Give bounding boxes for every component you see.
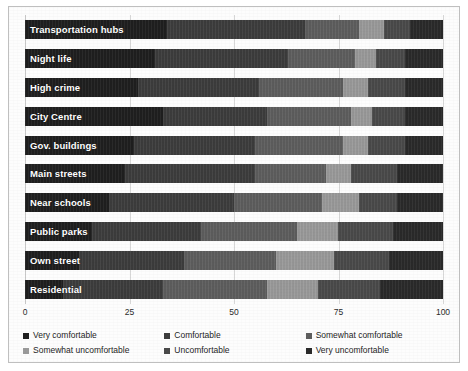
gridline-100: [443, 15, 444, 304]
chart-frame: Transportation hubsNight lifeHigh crimeC…: [8, 6, 460, 363]
x-tick-label: 100: [436, 307, 450, 317]
x-tick-label: 50: [229, 307, 238, 317]
bar-segment[interactable]: [384, 20, 409, 39]
legend-label: Comfortable: [174, 328, 220, 343]
bar-row[interactable]: Residential: [25, 280, 443, 299]
legend-swatch-icon: [23, 333, 29, 339]
bar-segment[interactable]: [79, 251, 184, 270]
bar-track: [25, 164, 443, 183]
bar-row[interactable]: Main streets: [25, 164, 443, 183]
legend-item[interactable]: Somewhat uncomfortable: [23, 343, 164, 358]
bar-segment[interactable]: [92, 222, 201, 241]
bar-segment[interactable]: [276, 251, 335, 270]
bar-segment[interactable]: [351, 164, 397, 183]
bar-segment[interactable]: [259, 78, 343, 97]
legend-swatch-icon: [164, 333, 170, 339]
bar-category-label: Own street: [30, 251, 80, 270]
bar-segment[interactable]: [134, 136, 255, 155]
legend-label: Somewhat uncomfortable: [33, 343, 129, 358]
bar-segment[interactable]: [288, 49, 355, 68]
legend-item[interactable]: Uncomfortable: [164, 343, 305, 358]
bar-segment[interactable]: [368, 136, 406, 155]
bar-segment[interactable]: [410, 20, 443, 39]
x-axis: 0255075100: [25, 307, 443, 321]
bar-segment[interactable]: [389, 251, 443, 270]
bar-segment[interactable]: [155, 49, 289, 68]
bar-segment[interactable]: [359, 20, 384, 39]
bar-segment[interactable]: [368, 78, 406, 97]
bar-segment[interactable]: [359, 193, 397, 212]
bar-row[interactable]: Night life: [25, 49, 443, 68]
bar-segment[interactable]: [343, 136, 368, 155]
bar-segment[interactable]: [326, 164, 351, 183]
bar-segment[interactable]: [405, 107, 443, 126]
bar-segment[interactable]: [393, 222, 443, 241]
legend-item[interactable]: Comfortable: [164, 328, 305, 343]
bar-row[interactable]: High crime: [25, 78, 443, 97]
bar-track: [25, 251, 443, 270]
bar-segment[interactable]: [201, 222, 297, 241]
bar-segment[interactable]: [297, 222, 339, 241]
legend-label: Very comfortable: [33, 328, 97, 343]
bar-row[interactable]: Transportation hubs: [25, 20, 443, 39]
bar-segment[interactable]: [167, 20, 305, 39]
x-tick-label: 25: [125, 307, 134, 317]
legend-label: Somewhat comfortable: [316, 328, 403, 343]
legend-label: Very uncomfortable: [316, 343, 389, 358]
bar-track: [25, 280, 443, 299]
bar-row[interactable]: City Centre: [25, 107, 443, 126]
bar-segment[interactable]: [163, 280, 268, 299]
bar-segment[interactable]: [343, 78, 368, 97]
bar-segment[interactable]: [234, 193, 322, 212]
legend-swatch-icon: [306, 348, 312, 354]
bar-track: [25, 78, 443, 97]
bar-segment[interactable]: [138, 78, 259, 97]
legend-item[interactable]: Somewhat comfortable: [306, 328, 447, 343]
bar-segment[interactable]: [334, 251, 388, 270]
bar-row[interactable]: Near schools: [25, 193, 443, 212]
bar-segment[interactable]: [397, 193, 443, 212]
bar-category-label: Near schools: [30, 193, 91, 212]
bar-segment[interactable]: [163, 107, 268, 126]
bar-category-label: Main streets: [30, 164, 87, 183]
legend-swatch-icon: [306, 333, 312, 339]
bar-row[interactable]: Public parks: [25, 222, 443, 241]
bar-segment[interactable]: [338, 222, 392, 241]
bar-row[interactable]: Gov. buildings: [25, 136, 443, 155]
bar-category-label: City Centre: [30, 107, 82, 126]
bar-segment[interactable]: [255, 164, 326, 183]
x-tick-label: 75: [334, 307, 343, 317]
bar-segment[interactable]: [305, 20, 359, 39]
bar-segment[interactable]: [380, 280, 443, 299]
bar-segment[interactable]: [376, 49, 405, 68]
bar-segment[interactable]: [397, 164, 443, 183]
plot-area: Transportation hubsNight lifeHigh crimeC…: [25, 15, 443, 304]
bar-category-label: Public parks: [30, 222, 88, 241]
bar-segment[interactable]: [405, 78, 443, 97]
bar-segment[interactable]: [351, 107, 372, 126]
bar-segment[interactable]: [109, 193, 234, 212]
x-tick-label: 0: [23, 307, 28, 317]
bar-segment[interactable]: [267, 280, 317, 299]
bar-row[interactable]: Own street: [25, 251, 443, 270]
bar-category-label: High crime: [30, 78, 80, 97]
bar-track: [25, 49, 443, 68]
legend-label: Uncomfortable: [174, 343, 229, 358]
legend-swatch-icon: [164, 348, 170, 354]
bar-segment[interactable]: [267, 107, 351, 126]
bar-segment[interactable]: [184, 251, 276, 270]
bar-segment[interactable]: [125, 164, 255, 183]
chart-legend: Very comfortableComfortableSomewhat comf…: [23, 328, 447, 358]
bar-segment[interactable]: [255, 136, 343, 155]
bar-segment[interactable]: [355, 49, 376, 68]
bar-segment[interactable]: [405, 49, 443, 68]
bar-segment[interactable]: [322, 193, 360, 212]
bar-category-label: Gov. buildings: [30, 136, 97, 155]
bar-segment[interactable]: [372, 107, 405, 126]
legend-item[interactable]: Very uncomfortable: [306, 343, 447, 358]
bar-segment[interactable]: [405, 136, 443, 155]
bar-track: [25, 107, 443, 126]
bar-segment[interactable]: [318, 280, 381, 299]
legend-swatch-icon: [23, 348, 29, 354]
legend-item[interactable]: Very comfortable: [23, 328, 164, 343]
